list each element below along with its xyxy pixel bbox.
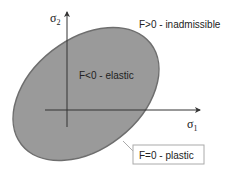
elastic-region-label: F<0 - elastic	[79, 70, 134, 81]
sigma1-label: σ1	[187, 117, 197, 133]
inadmissible-region-label: F>0 - inadmissible	[139, 19, 221, 30]
plastic-boundary-label: F=0 - plastic	[139, 150, 194, 161]
sigma2-label: σ2	[50, 11, 60, 27]
plastic-leader-line	[123, 141, 134, 152]
yield-surface-diagram: σ2 σ1 F>0 - inadmissible F<0 - elastic F…	[0, 0, 249, 176]
